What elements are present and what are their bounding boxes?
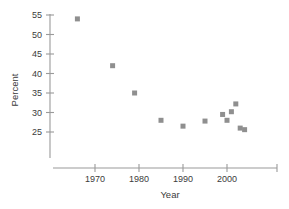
x-axis-title: Year [160, 189, 179, 200]
y-tick-label: 50 [32, 30, 42, 40]
y-tick-label: 30 [32, 108, 42, 118]
scatter-plot-figure: 25303540455055 Percent 1970198019902000 … [0, 0, 289, 209]
data-point-marker [75, 16, 80, 21]
x-axis-tick-labels: 1970198019902000 [85, 174, 237, 184]
y-tick-label: 45 [32, 49, 42, 59]
data-point-marker [159, 118, 164, 123]
data-point-marker [238, 126, 243, 131]
x-tick-label: 1970 [85, 174, 105, 184]
data-point-marker [181, 124, 186, 129]
data-point-marker [132, 91, 137, 96]
x-tick-label: 1990 [173, 174, 193, 184]
data-point-marker [242, 127, 247, 132]
data-point-series [75, 16, 247, 132]
y-tick-label: 55 [32, 10, 42, 20]
y-axis-tick-labels: 25303540455055 [32, 10, 42, 137]
y-tick-label: 25 [32, 127, 42, 137]
data-point-marker [233, 101, 238, 106]
y-tick-label: 40 [32, 69, 42, 79]
y-axis-title: Percent [9, 73, 20, 106]
x-tick-label: 2000 [217, 174, 237, 184]
data-point-marker [203, 119, 208, 124]
data-point-marker [110, 63, 115, 68]
plot-canvas: 25303540455055 Percent 1970198019902000 … [0, 0, 289, 209]
data-point-marker [220, 112, 225, 117]
data-point-marker [229, 109, 234, 114]
y-axis: 25303540455055 Percent [9, 10, 54, 158]
x-axis: 1970198019902000 Year [53, 164, 277, 200]
y-tick-label: 35 [32, 88, 42, 98]
x-tick-label: 1980 [129, 174, 149, 184]
data-point-marker [225, 118, 230, 123]
